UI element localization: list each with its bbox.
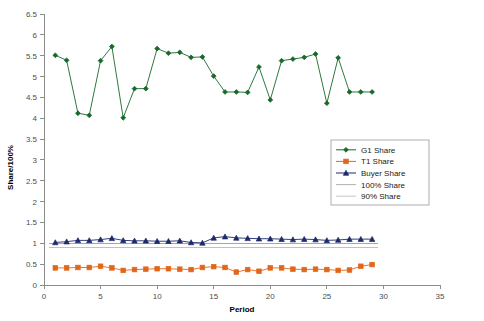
x-tick-label: 35 [436, 292, 445, 301]
legend-label: 90% Share [361, 192, 401, 201]
data-point-t1-share [110, 266, 115, 271]
data-point-g1-share [245, 90, 250, 95]
data-point-g1-share [200, 55, 205, 60]
data-point-g1-share [291, 57, 296, 62]
data-point-g1-share [189, 55, 194, 60]
data-point-g1-share [155, 46, 160, 51]
legend-label: Buyer Share [361, 169, 406, 178]
x-axis-title: Period [230, 305, 255, 314]
data-point-g1-share [53, 53, 58, 58]
x-axis-ticks: 05101520253035 [42, 285, 445, 301]
x-tick-label: 20 [266, 292, 275, 301]
y-axis-title: Share/100% [6, 145, 15, 190]
y-tick-label: 5 [33, 73, 38, 82]
data-point-t1-share [370, 262, 375, 267]
data-point-t1-share [336, 268, 341, 273]
data-point-t1-share [313, 267, 318, 272]
data-point-t1-share [64, 266, 69, 271]
series-line-g1-share [55, 47, 372, 118]
series-g1-share [53, 44, 375, 120]
data-point-g1-share [347, 90, 352, 95]
series-t1-share [53, 262, 374, 274]
data-point-g1-share [121, 115, 126, 120]
x-tick-label: 15 [209, 292, 218, 301]
y-tick-label: 3 [33, 156, 38, 165]
data-point-g1-share [268, 97, 273, 102]
data-point-t1-share [98, 264, 103, 269]
y-tick-label: 4 [33, 114, 38, 123]
x-tick-label: 25 [322, 292, 331, 301]
data-point-g1-share [64, 58, 69, 63]
data-point-g1-share [313, 52, 318, 57]
x-tick-label: 0 [42, 292, 47, 301]
data-point-t1-share [166, 266, 171, 271]
data-point-g1-share [132, 86, 137, 91]
data-point-g1-share [177, 50, 182, 55]
data-point-g1-share [336, 55, 341, 60]
data-point-t1-share [144, 267, 149, 272]
y-tick-label: 6 [33, 31, 38, 40]
data-point-t1-share [132, 267, 137, 272]
y-axis-ticks: 00.511.522.533.544.555.566.5 [26, 10, 44, 290]
data-point-t1-share [223, 265, 228, 270]
y-tick-label: 2.5 [26, 177, 38, 186]
x-tick-label: 10 [153, 292, 162, 301]
data-point-g1-share [257, 65, 262, 70]
data-point-t1-share [53, 266, 58, 271]
data-point-g1-share [166, 51, 171, 56]
line-chart: 00.511.522.533.544.555.566.5051015202530… [0, 0, 484, 321]
data-point-t1-share [359, 264, 364, 269]
data-point-t1-share [245, 267, 250, 272]
data-point-t1-share [76, 265, 81, 270]
legend-swatch-marker [344, 159, 349, 164]
data-point-t1-share [268, 266, 273, 271]
data-point-t1-share [325, 267, 330, 272]
data-point-g1-share [143, 86, 148, 91]
data-point-g1-share [87, 113, 92, 118]
y-tick-label: 3.5 [26, 135, 38, 144]
data-point-t1-share [302, 267, 307, 272]
data-point-g1-share [234, 90, 239, 95]
y-tick-label: 0.5 [26, 260, 38, 269]
y-tick-label: 0 [33, 281, 38, 290]
y-tick-label: 1 [33, 239, 38, 248]
x-tick-label: 30 [379, 292, 388, 301]
y-tick-label: 1.5 [26, 218, 38, 227]
data-point-t1-share [211, 264, 216, 269]
legend-label: G1 Share [361, 146, 396, 155]
y-tick-label: 5.5 [26, 52, 38, 61]
data-point-t1-share [177, 267, 182, 272]
data-point-g1-share [76, 111, 81, 116]
y-tick-label: 2 [33, 198, 38, 207]
data-point-g1-share [370, 90, 375, 95]
data-point-g1-share [279, 58, 284, 63]
data-point-t1-share [234, 270, 239, 275]
data-point-t1-share [257, 269, 262, 274]
data-point-t1-share [279, 266, 284, 271]
data-point-t1-share [87, 265, 92, 270]
data-point-t1-share [121, 268, 126, 273]
legend-label: 100% Share [361, 181, 406, 190]
legend-label: T1 Share [361, 157, 394, 166]
legend: G1 ShareT1 ShareBuyer Share100% Share90%… [331, 140, 429, 205]
data-point-t1-share [189, 267, 194, 272]
data-point-t1-share [200, 265, 205, 270]
data-point-g1-share [302, 55, 307, 60]
data-point-t1-share [347, 268, 352, 273]
data-point-t1-share [291, 267, 296, 272]
y-tick-label: 4.5 [26, 93, 38, 102]
data-point-g1-share [324, 101, 329, 106]
chart-container: 00.511.522.533.544.555.566.5051015202530… [0, 0, 484, 321]
y-tick-label: 6.5 [26, 10, 38, 19]
x-tick-label: 5 [98, 292, 103, 301]
data-point-t1-share [155, 266, 160, 271]
data-point-g1-share [358, 90, 363, 95]
